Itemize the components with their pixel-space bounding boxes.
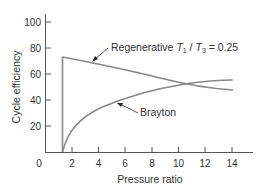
x-ticks: 0 2 4 6 8 10 12 14: [36, 147, 238, 169]
x-tick-label: 12: [199, 158, 211, 169]
x-tick-label: 8: [149, 158, 155, 169]
x-tick-label: 14: [226, 158, 238, 169]
y-axis-label: Cycle efficiency: [10, 50, 22, 124]
x-tick-label: 0: [36, 158, 42, 169]
chart-svg: 100 80 60 40 20 0 2 4 6 8 10 12 14 Press…: [0, 0, 264, 192]
y-ticks: 100 80 60 40 20: [24, 17, 51, 132]
y-tick-label: 100: [24, 17, 41, 28]
x-tick-label: 4: [96, 158, 102, 169]
y-tick-label: 80: [30, 43, 42, 54]
y-tick-label: 20: [30, 121, 42, 132]
regenerative-curve: [63, 57, 234, 152]
regenerative-label: Regenerative T1 / T3 = 0.25: [111, 41, 238, 54]
y-tick-label: 40: [30, 95, 42, 106]
efficiency-chart: 100 80 60 40 20 0 2 4 6 8 10 12 14 Press…: [0, 0, 264, 192]
y-tick-label: 60: [30, 69, 42, 80]
brayton-label: Brayton: [140, 106, 176, 118]
x-tick-label: 2: [69, 158, 75, 169]
x-axis-label: Pressure ratio: [117, 173, 183, 185]
annotation-arrows: [92, 48, 138, 113]
x-tick-label: 6: [122, 158, 128, 169]
x-tick-label: 10: [173, 158, 185, 169]
